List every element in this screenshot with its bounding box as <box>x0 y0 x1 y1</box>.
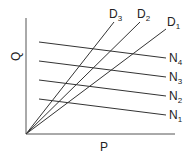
y-axis-label: Q <box>9 52 23 61</box>
d-lines <box>26 22 166 134</box>
line-n4 <box>39 42 166 58</box>
label-d1: D1 <box>167 15 181 31</box>
line-d2 <box>26 22 140 134</box>
label-d3: D3 <box>109 7 123 23</box>
label-n4: N4 <box>169 51 183 67</box>
n-lines <box>39 42 166 115</box>
label-n1: N1 <box>169 108 183 124</box>
line-n1 <box>39 99 166 115</box>
line-n3 <box>39 61 166 77</box>
diagram-canvas: P Q D3 D2 D1 N4 N3 N2 N1 <box>0 0 192 156</box>
label-n2: N2 <box>169 89 183 105</box>
label-n3: N3 <box>169 70 183 86</box>
x-axis-label: P <box>100 140 108 154</box>
label-d2: D2 <box>137 7 151 23</box>
